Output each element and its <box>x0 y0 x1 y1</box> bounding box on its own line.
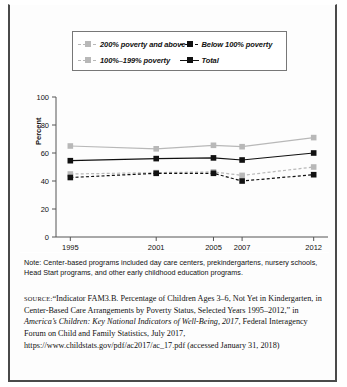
chart-source: SOURCE:“Indicator FAM3.B. Percentage of … <box>24 293 326 351</box>
data-point-marker <box>68 158 74 164</box>
data-point-marker <box>211 171 217 177</box>
data-point-marker <box>311 164 317 170</box>
data-point-marker <box>311 150 317 156</box>
figure-panel: 200% poverty and above Below 100% povert… <box>8 4 337 382</box>
data-point-marker <box>239 173 245 179</box>
series-line-1 <box>70 167 313 175</box>
x-axis-tick-label: 1995 <box>62 243 79 252</box>
data-point-marker <box>68 143 74 149</box>
source-label: SOURCE: <box>24 295 52 302</box>
chart-svg: 02040608010019952001200520072012 <box>10 5 339 255</box>
y-axis-tick-label: 40 <box>41 177 49 186</box>
data-point-marker <box>239 157 245 163</box>
x-axis-tick-label: 2007 <box>234 243 251 252</box>
y-axis-tick-label: 60 <box>41 149 49 158</box>
data-point-marker <box>239 178 245 184</box>
data-point-marker <box>211 143 217 149</box>
y-axis-tick-label: 100 <box>36 93 49 102</box>
data-point-marker <box>153 146 159 152</box>
x-axis-tick-label: 2012 <box>305 243 322 252</box>
data-point-marker <box>68 175 74 181</box>
y-axis-tick-label: 0 <box>45 233 49 242</box>
x-axis-tick-label: 2005 <box>205 243 222 252</box>
source-publication-title: America’s Children: Key National Indicat… <box>24 317 238 326</box>
data-point-marker <box>211 155 217 161</box>
series-line-3 <box>70 153 313 161</box>
x-axis-tick-label: 2001 <box>148 243 165 252</box>
series-line-2 <box>70 173 313 181</box>
data-point-marker <box>311 172 317 178</box>
chart-note: Note: Center-based programs included day… <box>24 258 326 277</box>
data-point-marker <box>153 171 159 177</box>
section-divider <box>20 252 329 253</box>
y-axis-tick-label: 20 <box>41 205 49 214</box>
data-point-marker <box>311 135 317 141</box>
source-text-part-1: “Indicator FAM3.B. Percentage of Childre… <box>24 294 322 315</box>
data-point-marker <box>239 144 245 150</box>
y-axis-tick-label: 80 <box>41 121 49 130</box>
series-line-0 <box>70 138 313 149</box>
data-point-marker <box>153 156 159 162</box>
